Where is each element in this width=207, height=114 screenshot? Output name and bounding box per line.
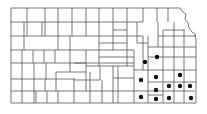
county-dot-6 [154, 97, 158, 101]
county-dot-8 [167, 84, 171, 88]
county-dot-5 [139, 95, 143, 99]
county-dot-11 [167, 96, 171, 100]
occurrence-dots [139, 55, 193, 101]
county-dot-9 [178, 84, 182, 88]
county-dot-1 [155, 55, 159, 59]
county-dot-12 [189, 96, 193, 100]
kansas-county-map [0, 0, 207, 114]
county-dot-2 [139, 78, 143, 82]
county-dot-4 [154, 88, 158, 92]
county-dot-10 [188, 84, 192, 88]
county-dot-0 [143, 60, 147, 64]
county-dot-3 [154, 75, 158, 79]
county-boundaries [11, 8, 196, 103]
county-dot-7 [178, 73, 182, 77]
